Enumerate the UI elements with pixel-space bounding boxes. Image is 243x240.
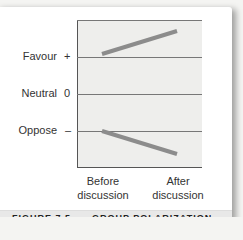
x-label-before-line1: Before <box>68 174 138 188</box>
oppose-series-line <box>102 131 177 154</box>
figure-title: GROUP POLARIZATION <box>92 213 212 217</box>
x-label-before-line2: discussion <box>68 188 138 202</box>
figure-caption: FIGURE 7.5 GROUP POLARIZATION <box>0 210 232 217</box>
x-label-after: After discussion <box>143 174 213 202</box>
x-label-after-line2: discussion <box>143 188 213 202</box>
x-label-before: Before discussion <box>68 174 138 202</box>
favour-series-line <box>102 31 177 54</box>
figure-number: FIGURE 7.5 <box>12 213 71 217</box>
x-label-after-line1: After <box>143 174 213 188</box>
